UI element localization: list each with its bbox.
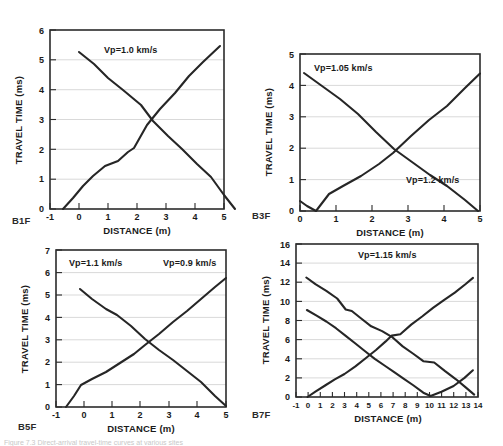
svg-text:1: 1 — [45, 380, 50, 390]
svg-text:12: 12 — [280, 277, 290, 287]
plot-frame-b5f — [56, 250, 226, 407]
y-tickmarks-b7f — [296, 244, 302, 397]
y-ticklabels-b3f: 0 1 2 3 4 5 — [289, 50, 294, 217]
svg-text:-1: -1 — [292, 401, 300, 410]
panel-tag-b3f: B3F — [252, 210, 271, 221]
yaxis-label-b7f: TRAVEL TIME (ms) — [260, 276, 271, 364]
y-ticklabels-b5f: 0 1 2 3 4 5 6 7 — [45, 246, 50, 413]
seismic-travel-time-figure: 0 1 2 3 4 5 6 -1 0 1 2 3 4 5 Vp=1.0 km/s… — [0, 0, 503, 446]
curve-reverse-short-b7f — [307, 310, 473, 396]
yaxis-label-b3f: TRAVEL TIME (ms) — [263, 88, 274, 176]
svg-text:5: 5 — [367, 401, 372, 410]
curve-forward-b1f — [63, 46, 220, 209]
svg-text:1: 1 — [289, 175, 294, 185]
svg-text:4: 4 — [192, 212, 197, 222]
y-tickmarks-b3f — [300, 54, 306, 211]
svg-text:5: 5 — [289, 50, 294, 60]
svg-text:16: 16 — [280, 240, 290, 250]
svg-text:13: 13 — [461, 401, 470, 410]
svg-text:0: 0 — [285, 392, 290, 402]
svg-text:1: 1 — [105, 212, 110, 222]
y-ticklabels-b7f: 0 2 4 6 8 10 12 14 16 — [280, 240, 290, 403]
figure-caption: Figure 7.3 Direct-arrival travel-time cu… — [4, 439, 499, 446]
svg-text:4: 4 — [289, 81, 294, 91]
svg-text:4: 4 — [39, 85, 44, 95]
yaxis-label-b1f: TRAVEL TIME (ms) — [13, 76, 24, 164]
svg-text:2: 2 — [289, 143, 294, 153]
panel-b1f: 0 1 2 3 4 5 6 -1 0 1 2 3 4 5 Vp=1.0 km/s… — [0, 8, 240, 223]
svg-text:7: 7 — [45, 246, 50, 256]
svg-text:3: 3 — [45, 335, 50, 345]
annotation-vp-right-b5f: Vp=0.9 km/s — [163, 258, 216, 268]
curve-reverse-b5f — [80, 289, 226, 406]
svg-text:1: 1 — [318, 401, 323, 410]
svg-text:4: 4 — [354, 401, 359, 410]
panel-tag-b1f: B1F — [12, 215, 31, 226]
svg-text:0: 0 — [306, 401, 311, 410]
svg-text:-1: -1 — [46, 212, 54, 222]
svg-text:-1: -1 — [52, 410, 60, 420]
panel-b5f: 0 1 2 3 4 5 6 7 -1 0 1 2 3 4 5 Vp=1.1 km… — [0, 235, 240, 435]
curve-reverse-long-b7f — [306, 278, 474, 395]
svg-text:9: 9 — [415, 401, 420, 410]
svg-text:2: 2 — [39, 145, 44, 155]
svg-text:8: 8 — [403, 401, 408, 410]
svg-text:2: 2 — [330, 401, 335, 410]
svg-text:7: 7 — [391, 401, 396, 410]
panel-b7f: 0 2 4 6 8 10 12 14 16 -1 0 1 2 3 4 5 6 7… — [248, 228, 498, 433]
svg-text:3: 3 — [166, 410, 171, 420]
svg-text:5: 5 — [223, 410, 228, 420]
x-tickmarks-b3f — [300, 205, 480, 211]
x-tickmarks-b1f — [50, 203, 224, 209]
svg-text:2: 2 — [369, 214, 374, 224]
svg-text:1: 1 — [109, 410, 114, 420]
xaxis-label-b5f: DISTANCE (m) — [107, 423, 175, 434]
svg-text:2: 2 — [285, 373, 290, 383]
svg-text:14: 14 — [474, 401, 483, 410]
svg-text:6: 6 — [39, 26, 44, 36]
svg-text:10: 10 — [425, 401, 434, 410]
yaxis-label-b5f: TRAVEL TIME (ms) — [19, 285, 30, 373]
svg-text:3: 3 — [405, 214, 410, 224]
svg-text:1: 1 — [39, 174, 44, 184]
svg-text:11: 11 — [437, 401, 446, 410]
svg-text:2: 2 — [45, 357, 50, 367]
x-tickmarks-b5f — [56, 401, 226, 407]
gridlines-b1f — [50, 60, 224, 179]
panel-b5f-plot: 0 1 2 3 4 5 6 7 -1 0 1 2 3 4 5 Vp=1.1 km… — [0, 235, 240, 435]
svg-text:0: 0 — [39, 204, 44, 214]
svg-text:2: 2 — [134, 212, 139, 222]
annotation-vp-b7f: Vp=1.15 km/s — [358, 250, 417, 260]
panel-tag-b7f: B7F — [252, 409, 271, 420]
x-ticklabels-b7f: -1 0 1 2 3 4 5 6 7 8 9 10 11 12 13 14 — [292, 401, 483, 410]
svg-text:4: 4 — [441, 214, 446, 224]
panel-b3f: 0 1 2 3 4 5 0 1 2 3 4 5 Vp=1.05 km/s Vp=… — [248, 28, 498, 228]
svg-text:6: 6 — [379, 401, 384, 410]
svg-text:14: 14 — [280, 258, 290, 268]
annotation-vp-upper-b3f: Vp=1.05 km/s — [314, 63, 373, 73]
svg-text:6: 6 — [285, 335, 290, 345]
svg-text:4: 4 — [45, 313, 50, 323]
svg-text:4: 4 — [285, 354, 290, 364]
svg-text:0: 0 — [45, 402, 50, 412]
x-ticklabels-b5f: -1 0 1 2 3 4 5 — [52, 410, 229, 420]
svg-text:4: 4 — [194, 410, 199, 420]
svg-text:0: 0 — [297, 214, 302, 224]
plot-frame-b3f — [300, 54, 480, 211]
svg-text:5: 5 — [45, 290, 50, 300]
svg-text:3: 3 — [163, 212, 168, 222]
y-tickmarks-b1f — [50, 30, 56, 209]
panel-b1f-plot: 0 1 2 3 4 5 6 -1 0 1 2 3 4 5 Vp=1.0 km/s… — [0, 8, 240, 223]
svg-text:5: 5 — [221, 212, 226, 222]
svg-text:5: 5 — [39, 55, 44, 65]
panel-tag-b5f: B5F — [18, 421, 37, 432]
svg-text:12: 12 — [449, 401, 458, 410]
curve-reverse-b3f — [304, 73, 478, 211]
svg-text:0: 0 — [81, 410, 86, 420]
svg-text:1: 1 — [333, 214, 338, 224]
annotation-vp-b1f: Vp=1.0 km/s — [104, 45, 157, 55]
svg-text:3: 3 — [39, 115, 44, 125]
svg-text:0: 0 — [289, 206, 294, 216]
svg-text:5: 5 — [477, 214, 482, 224]
y-ticklabels-b1f: 0 1 2 3 4 5 6 — [39, 26, 44, 215]
